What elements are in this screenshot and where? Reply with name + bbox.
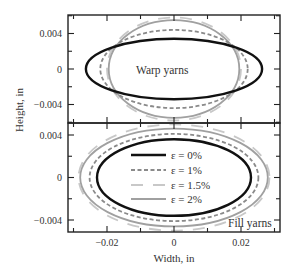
chart-figure: 0.004 0 −0.004 0.004 0 −0.004 −0.02 0 0.… (0, 0, 297, 279)
x-tick-label: 0 (172, 237, 177, 248)
x-tick-label: 0.02 (232, 237, 250, 248)
lower-y-tick-label: −0.004 (34, 215, 62, 226)
upper-y-tick-label: 0 (57, 64, 62, 75)
x-axis-label: Width, in (153, 252, 195, 264)
ellipse-series (80, 129, 268, 227)
lower-panel-plot-area (79, 124, 270, 230)
lower-y-tick-label: 0.004 (40, 130, 63, 141)
upper-y-tick-label: −0.004 (34, 99, 62, 110)
legend-label: ε = 2% (171, 193, 202, 205)
x-tick-label: −0.02 (95, 237, 118, 248)
legend-label: ε = 0% (171, 149, 202, 161)
ellipse-series (90, 134, 259, 221)
legend-label: ε = 1.5% (171, 179, 210, 191)
warp-yarns-annotation: Warp yarns (136, 64, 189, 77)
fill-yarns-annotation: Fill yarns (228, 217, 272, 230)
legend: ε = 0% ε = 1% ε = 1.5% ε = 2% (131, 149, 210, 205)
legend-label: ε = 1% (171, 164, 202, 176)
lower-y-tick-label: 0 (57, 172, 62, 183)
y-axis-label: Height, in (13, 88, 25, 132)
upper-y-tick-label: 0.004 (40, 28, 63, 39)
